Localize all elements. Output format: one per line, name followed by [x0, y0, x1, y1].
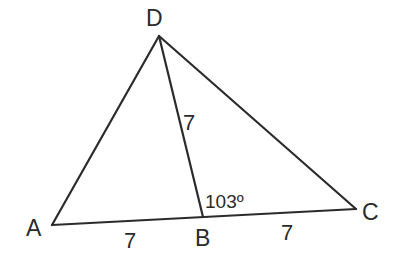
- vertex-label-d: D: [146, 5, 163, 31]
- length-label-ab: 7: [124, 228, 136, 253]
- angle-label-dbc: 103º: [205, 191, 244, 212]
- length-label-bc: 7: [281, 220, 293, 245]
- vertex-label-a: A: [26, 215, 42, 241]
- length-label-db: 7: [183, 110, 195, 135]
- vertex-label-c: C: [362, 199, 379, 225]
- triangle-diagram: D A B C 7 7 7 103º: [0, 0, 410, 264]
- vertex-label-b: B: [195, 225, 210, 251]
- segment-db: [159, 36, 203, 217]
- segment-ad: [52, 36, 159, 225]
